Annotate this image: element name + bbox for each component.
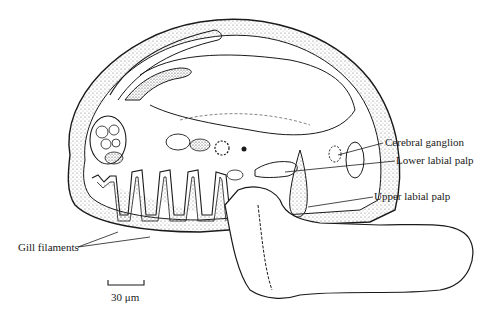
- label-lower-labial-palp: Lower labial palp: [396, 154, 474, 166]
- label-upper-labial-palp: Upper labial palp: [374, 190, 450, 202]
- scale-bar: [108, 280, 144, 285]
- left-organ: [90, 116, 126, 164]
- label-gill-filaments: Gill filaments: [18, 241, 79, 253]
- scale-bar-label: 30 μm: [111, 291, 139, 303]
- label-cerebral-ganglion: Cerebral ganglion: [385, 136, 464, 148]
